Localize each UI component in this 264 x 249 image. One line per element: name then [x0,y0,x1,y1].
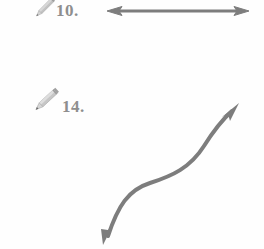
double-headed-curved-arrow [0,0,264,249]
worksheet-canvas: 10. 14. [0,0,264,249]
